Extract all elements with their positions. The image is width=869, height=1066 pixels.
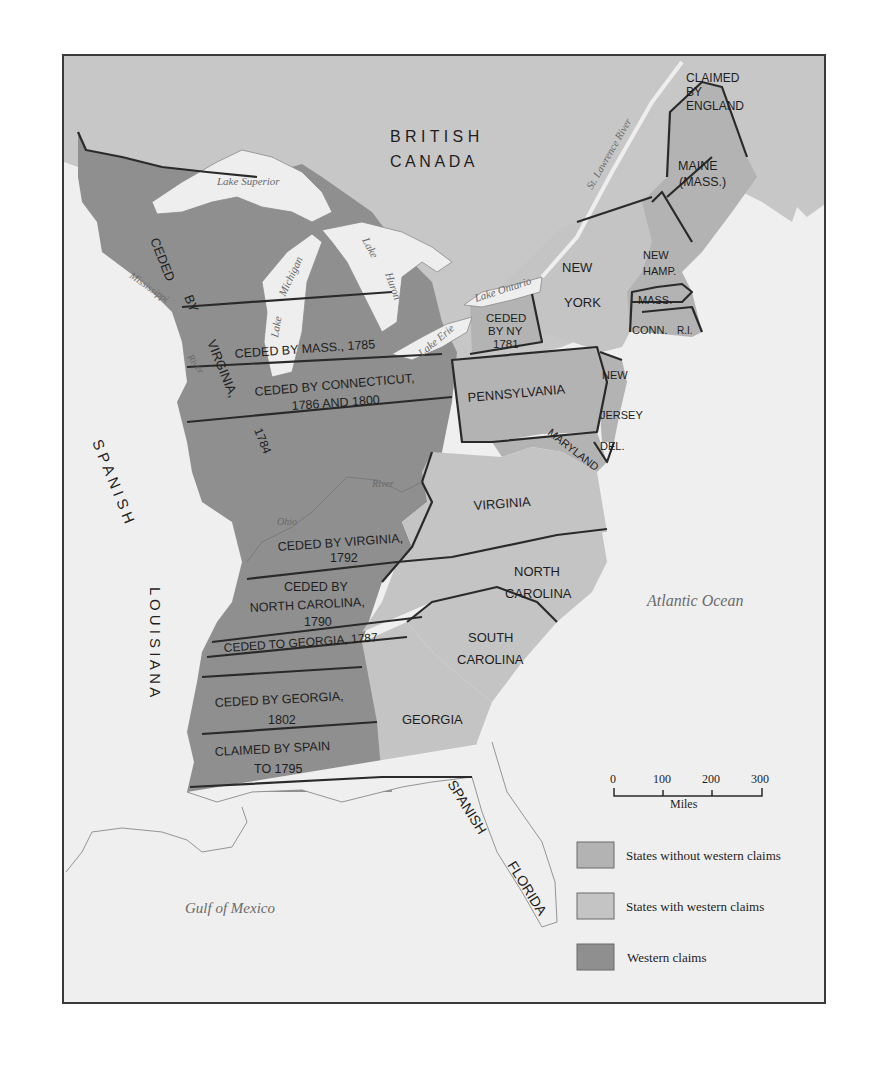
new-hamp-label-sub: HAMP.: [643, 265, 676, 277]
maine-label-sub: (MASS.): [679, 175, 726, 189]
svg-text:BY: BY: [686, 85, 702, 99]
ceded-by-ny-label-by: BY NY: [488, 325, 523, 337]
ceded-by-nc-label: CEDED BY: [284, 580, 349, 594]
ceded-by-virginia-1792-label-year: 1792: [330, 551, 358, 565]
legend-item-states-with: States with western claims: [577, 893, 764, 919]
new-jersey-label-sub: JERSEY: [600, 409, 643, 421]
south-carolina-label: SOUTH: [468, 630, 514, 645]
svg-text:Western claims: Western claims: [627, 950, 706, 965]
svg-text:100: 100: [653, 772, 671, 786]
map-canvas: B R I T I S H C A N A D A S P A N I S H …: [64, 56, 826, 1004]
legend-swatch: [577, 893, 614, 919]
south-carolina-label-sub: CAROLINA: [457, 652, 524, 667]
svg-text:200: 200: [702, 772, 720, 786]
mass-label: MASS.: [638, 294, 672, 306]
svg-text:States with western claims: States with western claims: [626, 899, 764, 914]
spanish-louisiana-label: S P A N I S H L O U I S I A N A: [89, 437, 164, 698]
svg-text:States without western claims: States without western claims: [626, 848, 781, 863]
gulf-of-mexico-label: Gulf of Mexico: [185, 900, 275, 916]
new-jersey-label: NEW: [602, 369, 628, 381]
ceded-by-ny-label-year: 1781: [493, 338, 519, 350]
lake-superior-label: Lake Superior: [216, 175, 280, 187]
north-carolina-label: NORTH: [514, 564, 560, 579]
svg-text:Miles: Miles: [670, 797, 698, 811]
ohio-label-river: River: [371, 478, 394, 489]
svg-text:ENGLAND: ENGLAND: [686, 99, 744, 113]
ceded-by-ny-label: CEDED: [486, 312, 526, 324]
atlantic-ocean-label: Atlantic Ocean: [646, 592, 743, 609]
svg-text:L O U I S I A N A: L O U I S I A N A: [147, 587, 164, 697]
north-carolina-label-sub: CAROLINA: [505, 586, 572, 601]
ri-label: R.I.: [677, 325, 693, 336]
map-frame: B R I T I S H C A N A D A S P A N I S H …: [62, 54, 826, 1004]
delaware-label: DEL.: [600, 440, 624, 452]
new-york-label: NEW: [562, 260, 593, 275]
svg-text:CLAIMED: CLAIMED: [686, 71, 740, 85]
new-york-label-sub: YORK: [564, 295, 601, 310]
scale-bar: 0 100 200 300 Miles: [610, 772, 769, 811]
ohio-label: Ohio: [277, 516, 297, 527]
new-hamp-label: NEW: [643, 249, 669, 261]
georgia-label: GEORGIA: [402, 712, 463, 727]
claimed-by-spain-label-year: TO 1795: [254, 762, 302, 776]
svg-text:S P A N I S H: S P A N I S H: [89, 437, 138, 526]
maine-label: MAINE: [678, 159, 718, 173]
gulf-coast-line: [66, 807, 247, 872]
legend-swatch: [577, 842, 614, 868]
legend-swatch: [577, 944, 614, 970]
legend-item-states-without: States without western claims: [577, 842, 781, 868]
svg-text:300: 300: [751, 772, 769, 786]
svg-text:0: 0: [610, 772, 616, 786]
legend-item-western-claims: Western claims: [577, 944, 706, 970]
conn-label: CONN.: [632, 324, 667, 336]
ceded-by-georgia-label-year: 1802: [268, 713, 296, 727]
svg-text:C A N A D A: C A N A D A: [390, 153, 475, 170]
ceded-by-nc-label-year: 1790: [304, 615, 332, 629]
svg-text:B R I T I S H: B R I T I S H: [390, 128, 479, 145]
legend: States without western claims States wit…: [577, 842, 781, 970]
